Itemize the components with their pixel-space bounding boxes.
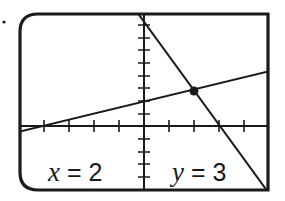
intersection-point bbox=[190, 87, 199, 96]
x-value: 2 bbox=[88, 158, 102, 186]
shallow-line bbox=[10, 71, 270, 134]
calculator-screen bbox=[0, 0, 285, 201]
y-value-label: y = 3 bbox=[172, 157, 226, 188]
y-value: 3 bbox=[212, 158, 226, 186]
x-var: x bbox=[48, 157, 60, 187]
bullet-dot bbox=[2, 20, 5, 23]
x-value-label: x = 2 bbox=[48, 157, 102, 188]
y-var: y bbox=[172, 157, 184, 187]
